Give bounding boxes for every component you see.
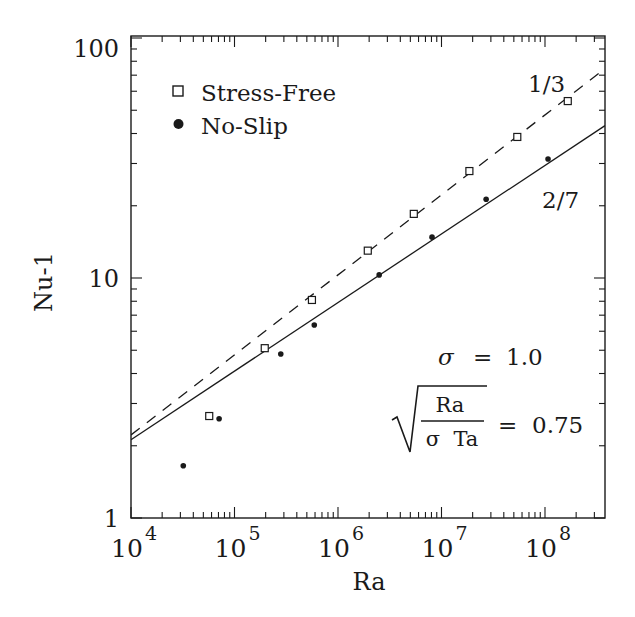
ratio-numerator: Ra <box>436 393 465 417</box>
legend: Stress-Free No-Slip <box>173 80 336 139</box>
no-slip-point <box>180 463 186 469</box>
ratio-value: 0.75 <box>532 412 583 438</box>
stress-free-point <box>564 98 571 105</box>
ratio-equals: = <box>498 412 517 438</box>
x-tick-exponent: 4 <box>145 522 157 544</box>
slope-label-one-third: 1/3 <box>528 71 565 97</box>
legend-filled-circle-icon <box>174 119 184 129</box>
no-slip-point <box>376 272 382 278</box>
x-tick-labels: 104105106107108 <box>111 522 571 563</box>
axis-ticks <box>131 36 605 518</box>
stress-free-point <box>206 413 213 420</box>
plot-frame <box>131 36 605 518</box>
stress-free-point <box>514 133 521 140</box>
x-tick-exponent: 7 <box>455 522 467 544</box>
x-tick-exponent: 5 <box>248 522 260 544</box>
x-tick-label: 10 <box>111 534 143 563</box>
ratio-annotation: Ra σ Ta = 0.75 <box>392 386 583 452</box>
solid-fit-line <box>131 126 605 440</box>
no-slip-point <box>429 234 435 240</box>
chart: 104105106107108 110100 Ra Nu-1 Stress-Fr… <box>0 0 635 617</box>
no-slip-point <box>545 156 551 162</box>
x-tick-label: 10 <box>215 534 247 563</box>
x-axis-label: Ra <box>353 568 386 596</box>
sigma-symbol: σ <box>438 344 455 370</box>
stress-free-point <box>466 168 473 175</box>
x-tick-label: 10 <box>525 534 557 563</box>
x-tick-label: 10 <box>422 534 454 563</box>
no-slip-point <box>216 416 222 422</box>
y-axis-label: Nu-1 <box>30 252 58 312</box>
no-slip-point <box>311 322 317 328</box>
no-slip-point <box>483 196 489 202</box>
legend-open-square-icon <box>173 86 183 96</box>
sigma-value: 1.0 <box>506 344 543 370</box>
y-tick-label: 100 <box>73 35 119 63</box>
stress-free-point <box>410 210 417 217</box>
no-slip-point <box>278 351 284 357</box>
y-tick-label: 1 <box>104 505 119 533</box>
ratio-denominator: σ Ta <box>426 427 479 451</box>
x-tick-exponent: 6 <box>352 522 364 544</box>
x-tick-exponent: 8 <box>559 522 571 544</box>
stress-free-point <box>261 345 268 352</box>
x-tick-label: 10 <box>318 534 350 563</box>
slope-label-two-sevenths: 2/7 <box>542 187 579 213</box>
sigma-annotation: σ = 1.0 <box>438 344 543 370</box>
stress-free-point <box>308 296 315 303</box>
legend-label-no-slip: No-Slip <box>201 113 288 139</box>
y-tick-label: 10 <box>88 265 119 293</box>
y-tick-labels: 110100 <box>73 35 119 533</box>
sigma-equals: = <box>473 344 492 370</box>
legend-label-stress-free: Stress-Free <box>201 80 336 106</box>
stress-free-point <box>364 247 371 254</box>
plot-border <box>131 36 605 518</box>
